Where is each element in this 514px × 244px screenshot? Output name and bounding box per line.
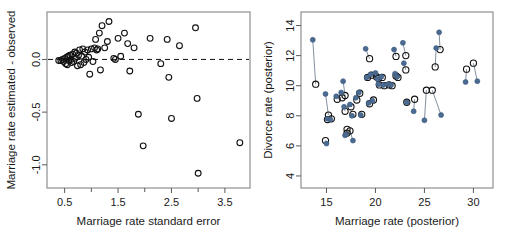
left-data-points xyxy=(56,19,243,177)
data-point xyxy=(93,37,99,43)
observed-point xyxy=(341,79,346,84)
observed-point xyxy=(434,46,439,51)
data-point xyxy=(90,59,96,65)
right-plot-canvas: 15202530468101214Marriage rate (posterio… xyxy=(257,0,514,244)
observed-point xyxy=(368,72,373,77)
y-tick-label: 4 xyxy=(284,173,296,179)
observed-point xyxy=(373,70,378,75)
data-point xyxy=(115,35,121,41)
panel-right-scatter: 15202530468101214Marriage rate (posterio… xyxy=(257,0,514,244)
estimated-point xyxy=(429,87,435,93)
x-tick-label: 30 xyxy=(467,196,479,208)
data-point xyxy=(87,71,93,77)
data-point xyxy=(125,41,131,47)
x-tick-label: 2.5 xyxy=(164,196,179,208)
y-tick-label: 0.0 xyxy=(30,52,42,67)
pair-connector xyxy=(432,90,441,115)
y-tick-label: 8 xyxy=(284,113,296,119)
x-tick-label: 0.5 xyxy=(57,196,72,208)
y-tick-label: -0.5 xyxy=(30,103,42,122)
y-axis-title: Divorce rate (posterior) xyxy=(262,41,274,159)
observed-point xyxy=(400,40,405,45)
figure-container: 0.51.52.53.5-1.0-0.50.0Marriage rate sta… xyxy=(0,0,514,244)
observed-point xyxy=(404,100,409,105)
observed-point xyxy=(342,104,347,109)
x-tick-label: 3.5 xyxy=(217,196,232,208)
observed-point xyxy=(381,82,386,87)
data-point xyxy=(166,74,172,80)
data-point xyxy=(140,143,146,149)
data-point xyxy=(99,23,105,29)
x-axis-title: Marriage rate standard error xyxy=(77,215,221,227)
observed-point xyxy=(376,82,381,87)
pair-connector xyxy=(313,40,316,84)
observed-point xyxy=(358,113,363,118)
data-point xyxy=(177,43,183,49)
pair-connector xyxy=(424,90,426,120)
observed-point xyxy=(349,113,354,118)
observed-point xyxy=(339,90,344,95)
observed-point xyxy=(356,90,361,95)
data-point xyxy=(135,111,141,117)
data-point xyxy=(104,39,110,45)
data-point xyxy=(96,30,102,36)
x-tick-label: 15 xyxy=(320,196,332,208)
data-point xyxy=(169,116,175,122)
observed-point xyxy=(334,94,339,99)
observed-point xyxy=(379,74,384,79)
x-axis-title: Marriage rate (posterior) xyxy=(335,215,459,227)
observed-point xyxy=(463,79,468,84)
observed-point xyxy=(439,113,444,118)
x-tick-label: 20 xyxy=(369,196,381,208)
observed-point xyxy=(344,132,349,137)
data-point xyxy=(122,30,128,36)
x-tick-label: 1.5 xyxy=(110,196,125,208)
data-point xyxy=(127,68,133,74)
observed-point xyxy=(347,102,352,107)
observed-point xyxy=(324,141,329,146)
data-point xyxy=(194,96,200,102)
observed-point xyxy=(401,61,406,66)
observed-point xyxy=(395,74,400,79)
observed-point xyxy=(310,37,315,42)
data-point xyxy=(102,45,108,51)
left-plot-canvas: 0.51.52.53.5-1.0-0.50.0Marriage rate sta… xyxy=(0,0,257,244)
y-tick-label: 10 xyxy=(284,80,296,92)
observed-point xyxy=(411,109,416,114)
y-tick-label: -1.0 xyxy=(30,155,42,174)
observed-point xyxy=(392,47,397,52)
data-point xyxy=(98,67,104,73)
y-tick-label: 14 xyxy=(284,19,296,31)
observed-point xyxy=(328,117,333,122)
observed-point xyxy=(353,95,358,100)
x-tick-label: 25 xyxy=(418,196,430,208)
y-tick-label: 12 xyxy=(284,49,296,61)
data-point xyxy=(237,140,243,146)
data-point xyxy=(158,61,164,67)
data-point xyxy=(195,170,201,176)
data-point xyxy=(193,25,199,31)
observed-point xyxy=(350,138,355,143)
estimated-point xyxy=(366,56,372,62)
observed-point xyxy=(389,82,394,87)
observed-point xyxy=(363,46,368,51)
data-point xyxy=(147,35,153,41)
observed-point xyxy=(370,98,375,103)
observed-point xyxy=(422,118,427,123)
observed-point xyxy=(437,30,442,35)
estimated-point xyxy=(403,53,409,59)
data-point xyxy=(118,53,124,59)
data-point xyxy=(164,37,170,43)
data-point xyxy=(106,19,112,25)
observed-point xyxy=(323,91,328,96)
observed-point xyxy=(475,79,480,84)
data-point xyxy=(131,45,137,51)
y-axis-title: Marriage rate estimated - observed xyxy=(5,11,17,190)
panel-left-scatter: 0.51.52.53.5-1.0-0.50.0Marriage rate sta… xyxy=(0,0,257,244)
y-tick-label: 6 xyxy=(284,143,296,149)
observed-points xyxy=(310,30,480,146)
